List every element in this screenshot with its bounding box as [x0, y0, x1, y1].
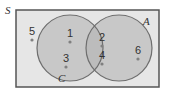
point-dot-5	[30, 38, 33, 41]
point-label-1: 1	[67, 27, 73, 39]
point-dot-6	[136, 57, 139, 60]
point-dot-3	[64, 65, 67, 68]
point-label-3: 3	[63, 52, 69, 64]
set-c-label: C	[58, 72, 66, 84]
universe-label: S	[5, 4, 11, 16]
point-label-2: 2	[99, 31, 105, 43]
set-a-label: A	[142, 15, 150, 27]
point-label-6: 6	[135, 44, 141, 56]
point-label-5: 5	[29, 25, 35, 37]
point-dot-1	[68, 40, 71, 43]
point-label-4: 4	[99, 49, 105, 61]
point-dot-2	[100, 44, 103, 47]
point-dot-4	[100, 62, 103, 65]
venn-diagram: S C A 513246	[0, 0, 171, 93]
